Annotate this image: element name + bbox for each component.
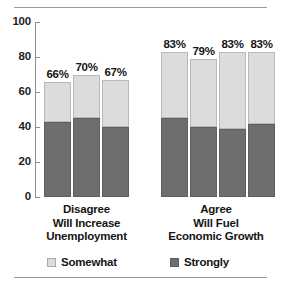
group-caption-disagree-line2: Will Increase: [30, 217, 143, 231]
stacked-bar-plot-area: 100 80 60 40 20 0 66%70%67%83%79%83%83% …: [0, 0, 281, 289]
bar-segment-strongly: [73, 118, 100, 197]
stacked-bar: [248, 52, 275, 197]
legend-item-somewhat[interactable]: Somewhat: [47, 256, 117, 268]
bar-segment-strongly: [190, 127, 217, 197]
y-tick-20: [35, 162, 40, 163]
y-tick-label-20: 20: [1, 156, 31, 168]
y-tick-0: [35, 197, 40, 198]
stacked-bar: [219, 52, 246, 197]
bar-segment-somewhat: [102, 80, 129, 127]
bar-segment-strongly: [248, 124, 275, 198]
bar-segment-somewhat: [248, 52, 275, 124]
y-tick-80: [35, 57, 40, 58]
bar-segment-somewhat: [219, 52, 246, 129]
legend-item-strongly[interactable]: Strongly: [170, 256, 229, 268]
bar-value-label: 67%: [98, 66, 133, 78]
y-tick-60: [35, 92, 40, 93]
y-tick-label-100: 100: [1, 16, 31, 28]
bar-segment-strongly: [44, 122, 71, 197]
stacked-bar: [44, 82, 71, 198]
group-caption-agree-line3: Economic Growth: [151, 230, 281, 244]
group-caption-agree: Agree Will Fuel Economic Growth: [151, 203, 281, 244]
bar-segment-somewhat: [161, 52, 188, 119]
y-tick-100: [35, 22, 40, 23]
legend-swatch-somewhat-icon: [47, 258, 56, 267]
y-tick-label-0: 0: [1, 191, 31, 203]
bar-value-label: 83%: [244, 38, 279, 50]
legend-swatch-strongly-icon: [170, 258, 179, 267]
group-caption-disagree-line3: Unemployment: [30, 230, 143, 244]
y-axis-line: [35, 22, 36, 198]
bar-segment-somewhat: [73, 75, 100, 119]
legend-label-strongly: Strongly: [184, 256, 229, 268]
y-tick-label-80: 80: [1, 51, 31, 63]
stacked-bar: [190, 59, 217, 197]
stacked-bar: [161, 52, 188, 197]
y-tick-40: [35, 127, 40, 128]
group-caption-disagree-line1: Disagree: [30, 203, 143, 217]
stacked-bar: [102, 80, 129, 197]
chart-figure: 100 80 60 40 20 0 66%70%67%83%79%83%83% …: [0, 0, 281, 289]
bar-segment-strongly: [219, 129, 246, 197]
bar-segment-strongly: [102, 127, 129, 197]
y-tick-label-60: 60: [1, 86, 31, 98]
group-caption-agree-line1: Agree: [151, 203, 281, 217]
group-caption-agree-line2: Will Fuel: [151, 217, 281, 231]
group-caption-disagree: Disagree Will Increase Unemployment: [30, 203, 143, 244]
stacked-bar: [73, 75, 100, 198]
legend-label-somewhat: Somewhat: [61, 256, 117, 268]
bar-segment-strongly: [161, 118, 188, 197]
y-tick-label-40: 40: [1, 121, 31, 133]
bar-segment-somewhat: [44, 82, 71, 122]
bar-segment-somewhat: [190, 59, 217, 127]
